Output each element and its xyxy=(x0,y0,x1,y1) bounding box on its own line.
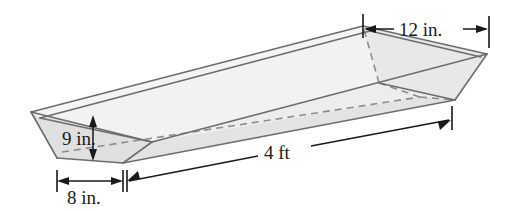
dim-8in-label: 8 in. xyxy=(67,187,101,208)
dim-8in-left-arrowhead xyxy=(57,177,69,185)
dim-4ft-left-line xyxy=(129,156,258,181)
dim-12in-label: 12 in. xyxy=(399,19,442,40)
dim-8in-right-arrowhead xyxy=(111,177,123,185)
dim-4ft-label: 4 ft xyxy=(264,142,291,163)
dimension-bottom-width: 8 in. xyxy=(57,170,123,208)
trough-illustration: 12 in. 9 in. 8 in. 4 ft xyxy=(0,0,516,211)
dim-9in-label: 9 in. xyxy=(62,128,96,149)
dim-12in-right-arrowhead xyxy=(476,25,488,33)
geometry-figure: 12 in. 9 in. 8 in. 4 ft xyxy=(0,0,516,211)
